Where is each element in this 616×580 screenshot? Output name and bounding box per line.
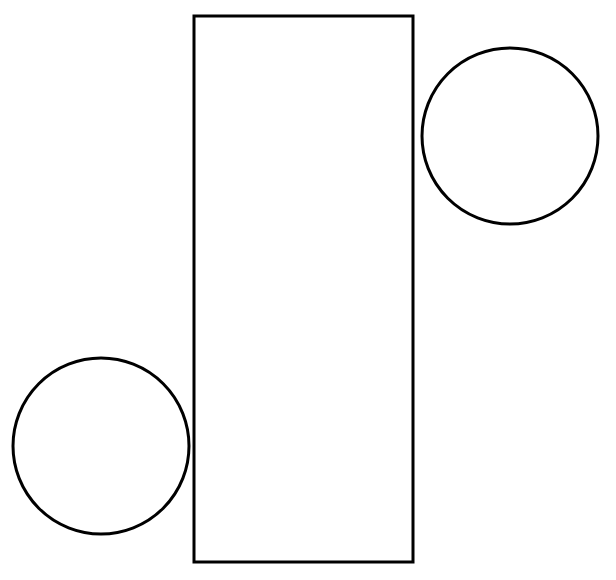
rectangle-shape (194, 16, 413, 562)
shapes-svg (0, 0, 616, 580)
circle-bottom-left-shape (13, 358, 189, 534)
circle-top-right-shape (422, 48, 598, 224)
figure-canvas (0, 0, 616, 580)
